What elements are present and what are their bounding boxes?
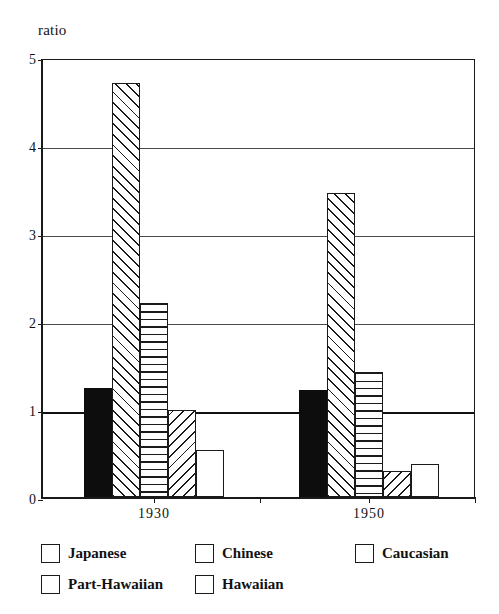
- chart-legend: JapaneseChineseCaucasianPart-HawaiianHaw…: [41, 538, 486, 600]
- legend-item-japanese[interactable]: Japanese: [41, 544, 195, 563]
- x-axis-minor-tick-mark: [260, 497, 261, 503]
- legend-row: Part-HawaiianHawaiian: [41, 569, 486, 600]
- gridline: [43, 148, 474, 149]
- gridline: [43, 236, 474, 237]
- bar-japanese-1930: [84, 388, 112, 497]
- legend-label: Caucasian: [382, 545, 449, 562]
- horizontal-lines-swatch: [355, 544, 374, 563]
- plot-area: 01234519301950: [41, 59, 475, 499]
- x-axis-tick-label-1950: 1950: [353, 506, 385, 522]
- empty-white-swatch: [195, 575, 214, 594]
- legend-label: Chinese: [222, 545, 273, 562]
- legend-label: Japanese: [68, 545, 126, 562]
- y-axis-tick-label: 1: [29, 404, 36, 420]
- bar-chinese-1950: [327, 193, 355, 497]
- y-axis-tick-mark: [38, 60, 43, 61]
- x-axis-tick-mark: [369, 497, 370, 503]
- y-axis-tick-label: 2: [29, 316, 36, 332]
- bar-chinese-1930: [112, 83, 140, 497]
- y-axis-tick-label: 4: [29, 140, 36, 156]
- y-axis-label: ratio: [38, 22, 67, 39]
- x-axis-tick-mark: [154, 497, 155, 503]
- legend-label: Part-Hawaiian: [68, 576, 163, 593]
- legend-item-caucasian[interactable]: Caucasian: [355, 544, 485, 563]
- y-axis-tick-mark: [38, 148, 43, 149]
- x-axis-tick-label-1930: 1930: [138, 506, 170, 522]
- y-axis-tick-label: 0: [29, 492, 36, 508]
- y-axis-tick-mark: [38, 324, 43, 325]
- legend-label: Hawaiian: [222, 576, 284, 593]
- bar-part-hawaiian-1950: [383, 471, 411, 497]
- bar-caucasian-1930: [140, 303, 168, 497]
- y-axis-tick-mark: [38, 236, 43, 237]
- bar-part-hawaiian-1930: [168, 410, 196, 497]
- y-axis-tick-label: 3: [29, 228, 36, 244]
- gridline: [43, 324, 474, 325]
- bar-caucasian-1950: [355, 372, 383, 497]
- legend-item-chinese[interactable]: Chinese: [195, 544, 355, 563]
- y-axis-tick-mark: [38, 500, 43, 501]
- legend-item-hawaiian[interactable]: Hawaiian: [195, 575, 355, 594]
- diagonal-forward-swatch: [195, 544, 214, 563]
- bar-hawaiian-1930: [196, 450, 224, 497]
- legend-item-part-hawaiian[interactable]: Part-Hawaiian: [41, 575, 195, 594]
- legend-row: JapaneseChineseCaucasian: [41, 538, 486, 569]
- x-axis-minor-tick-mark: [475, 497, 476, 503]
- y-axis-tick-label: 5: [29, 52, 36, 68]
- solid-black-swatch: [41, 544, 60, 563]
- y-axis-tick-mark: [38, 412, 43, 413]
- bar-hawaiian-1950: [411, 464, 439, 497]
- diagonal-backward-swatch: [41, 575, 60, 594]
- bar-japanese-1950: [299, 390, 327, 497]
